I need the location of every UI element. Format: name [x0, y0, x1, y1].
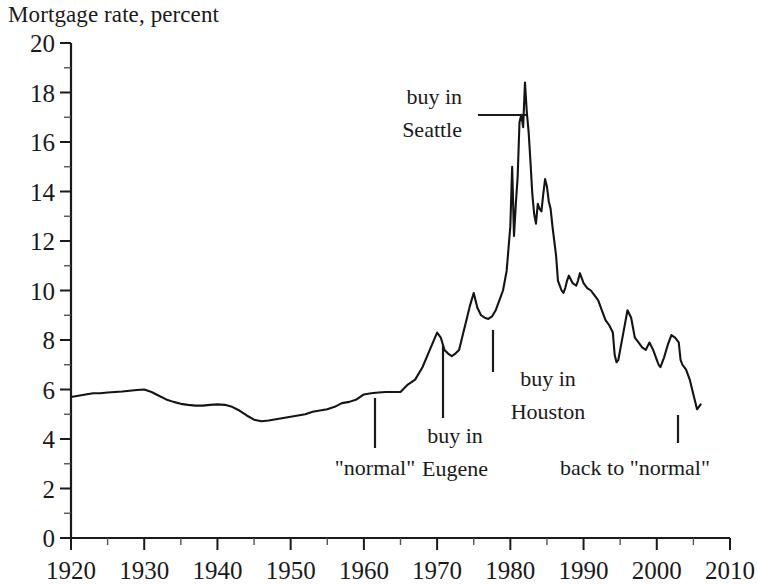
x-tick-label-2010: 2010: [705, 557, 755, 584]
annotation-buy-in-eugene: buy inEugene: [422, 345, 488, 481]
y-axis-tick-labels: 02468101214161820: [30, 30, 56, 552]
x-tick-label-1930: 1930: [119, 557, 169, 584]
y-tick-label-4: 4: [43, 426, 56, 453]
y-tick-label-6: 6: [43, 377, 56, 404]
annotation-label-buy-in-eugene: buy in: [427, 423, 483, 448]
annotation-label-normal: "normal": [335, 455, 415, 480]
x-tick-label-1990: 1990: [559, 557, 609, 584]
annotation-label-buy-in-seattle: buy in: [406, 84, 462, 109]
y-tick-label-0: 0: [43, 525, 56, 552]
y-tick-label-20: 20: [30, 30, 55, 57]
annotations-group: "normal"buy inEugenebuy inSeattlebuy inH…: [335, 84, 710, 481]
annotation-normal: "normal": [335, 398, 415, 480]
annotation-label-buy-in-houston: buy in: [520, 366, 576, 391]
annotation-label-buy-in-seattle: Seattle: [402, 117, 462, 142]
x-tick-label-1970: 1970: [412, 557, 462, 584]
annotation-buy-in-houston: buy inHouston: [493, 330, 585, 424]
y-tick-label-18: 18: [30, 80, 55, 107]
annotation-buy-in-seattle: buy inSeattle: [402, 84, 527, 142]
y-tick-label-14: 14: [30, 179, 56, 206]
y-tick-label-8: 8: [43, 327, 56, 354]
y-tick-label-2: 2: [43, 476, 56, 503]
annotation-label-buy-in-eugene: Eugene: [422, 456, 488, 481]
mortgage-rate-line: [71, 83, 701, 422]
data-series-group: [71, 83, 701, 422]
x-tick-label-1960: 1960: [339, 557, 389, 584]
annotation-label-buy-in-houston: Houston: [511, 399, 586, 424]
x-tick-label-2000: 2000: [632, 557, 682, 584]
x-tick-label-1940: 1940: [192, 557, 242, 584]
mortgage-rate-chart-figure: Mortgage rate, percent 02468101214161820…: [0, 0, 757, 585]
x-tick-label-1950: 1950: [266, 557, 316, 584]
x-axis-tick-labels: 1920193019401950196019701980199020002010: [46, 557, 755, 584]
y-tick-label-10: 10: [30, 278, 55, 305]
y-tick-label-12: 12: [30, 228, 55, 255]
y-tick-label-16: 16: [30, 129, 55, 156]
x-tick-label-1980: 1980: [485, 557, 535, 584]
annotation-back-to-normal: back to "normal": [560, 415, 710, 480]
annotation-label-back-to-normal: back to "normal": [560, 455, 710, 480]
chart-plot-area: 02468101214161820 1920193019401950196019…: [0, 0, 757, 585]
x-tick-label-1920: 1920: [46, 557, 96, 584]
